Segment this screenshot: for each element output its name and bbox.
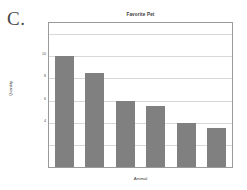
figure-panel: C. Favorite Pet 46810 Quantity Animal xyxy=(0,0,247,190)
bar xyxy=(207,128,226,167)
bar xyxy=(116,101,135,167)
y-axis-tick-labels: 46810 xyxy=(30,22,46,168)
chart-title: Favorite Pet xyxy=(48,12,233,17)
plot-area xyxy=(48,22,233,168)
panel-letter: C. xyxy=(7,9,25,28)
gridline xyxy=(49,78,232,79)
gridline xyxy=(49,123,232,124)
bar xyxy=(85,73,104,167)
y-tick-label: 8 xyxy=(32,75,46,79)
gridline xyxy=(49,145,232,146)
y-tick-label: 10 xyxy=(32,53,46,57)
gridline xyxy=(49,56,232,57)
y-axis-label: Quantity xyxy=(8,63,13,115)
y-tick-label: 4 xyxy=(32,120,46,124)
y-tick-label: 6 xyxy=(32,98,46,102)
bar xyxy=(177,123,196,167)
bar xyxy=(55,56,74,167)
gridline xyxy=(49,101,232,102)
x-axis-label: Animal xyxy=(48,176,233,181)
gridline xyxy=(49,34,232,35)
bar xyxy=(146,106,165,167)
